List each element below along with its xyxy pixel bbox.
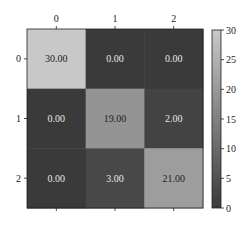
cell-value-label: 0.00 (48, 113, 66, 124)
colorbar-tick-label: 0 (226, 203, 231, 214)
colorbar-tick-label: 5 (226, 173, 231, 184)
cell-value-label: 19.00 (104, 113, 127, 124)
x-tick-label: 1 (113, 13, 118, 24)
colorbar-ticks: 051015202530 (221, 25, 236, 214)
colorbar-tick-label: 20 (226, 84, 236, 95)
colorbar-tick-label: 30 (226, 25, 236, 36)
y-tick-label: 2 (16, 173, 21, 184)
x-tick-label: 2 (171, 13, 176, 24)
confusion-matrix-heatmap: 30.000.000.000.0019.002.000.003.0021.00 … (0, 0, 249, 227)
cell-value-label: 30.00 (45, 53, 68, 64)
colorbar-tick-label: 10 (226, 143, 236, 154)
cell-value-label: 21.00 (162, 173, 185, 184)
y-axis-ticks: 012 (16, 53, 27, 183)
cell-value-label: 0.00 (48, 173, 66, 184)
cell-value-label: 2.00 (165, 113, 183, 124)
x-tick-label: 0 (54, 13, 59, 24)
cell-value-label: 3.00 (106, 173, 124, 184)
colorbar-tick-label: 15 (226, 114, 236, 125)
y-tick-label: 1 (16, 113, 21, 124)
y-tick-label: 0 (16, 53, 21, 64)
colorbar-tick-label: 25 (226, 54, 236, 65)
colorbar (212, 30, 221, 208)
cell-value-label: 0.00 (165, 53, 183, 64)
cell-value-label: 0.00 (106, 53, 124, 64)
